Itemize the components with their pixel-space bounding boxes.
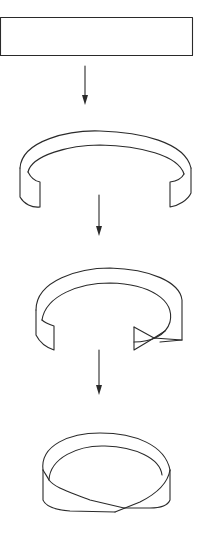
bent-strip [20, 131, 191, 207]
arrow-3-icon [96, 350, 102, 395]
diagram-svg [0, 0, 200, 536]
mobius-strip [43, 433, 170, 512]
flat-strip [1, 18, 193, 56]
mobius-diagram: Forming a Möbius strip from a rectangula… [0, 0, 200, 536]
arrow-1-icon [82, 66, 88, 105]
half-twist-strip [36, 268, 182, 350]
arrow-2-icon [96, 195, 102, 236]
